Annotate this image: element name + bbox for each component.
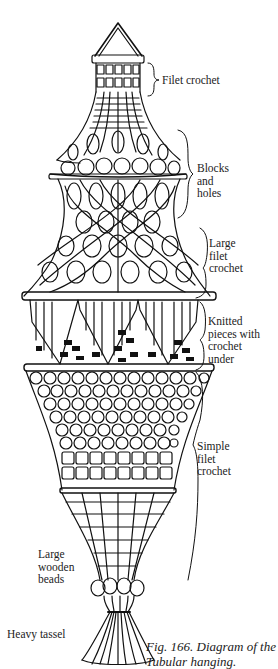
label-blocks-and-holes: Blocks and holes xyxy=(197,162,229,200)
simple-filet-crochet-section xyxy=(26,371,212,493)
label-large-wooden-beads: Large wooden beads xyxy=(38,548,74,586)
label-filet-crochet: Filet crochet xyxy=(162,74,220,87)
lower-filet-taper xyxy=(62,493,174,580)
figure-caption: Fig. 166. Diagram of the Tubular hanging… xyxy=(146,639,276,669)
heavy-tassel-drawing xyxy=(82,612,154,665)
top-pyramid xyxy=(92,23,144,63)
label-knitted-pieces: Knitted pieces with crochet under xyxy=(208,315,260,365)
label-heavy-tassel: Heavy tassel xyxy=(7,628,65,641)
label-simple-filet-crochet: Simple filet crochet xyxy=(197,440,231,478)
large-filet-crochet-section xyxy=(22,179,216,300)
label-large-filet-crochet: Large filet crochet xyxy=(209,237,243,275)
knitted-pieces-section xyxy=(24,300,214,371)
wooden-beads xyxy=(91,578,144,612)
